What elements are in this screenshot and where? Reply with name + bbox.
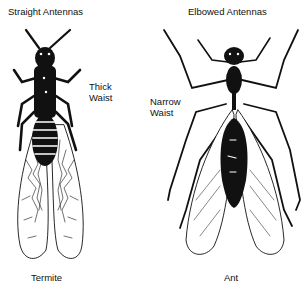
ant-waist-label-line2: Waist bbox=[150, 107, 173, 118]
termite-illustration bbox=[14, 30, 83, 258]
termite-ant-diagram: Straight Antennas Thick Waist Termite El… bbox=[0, 0, 308, 286]
termite-waist-label-line2: Waist bbox=[89, 92, 112, 103]
termite-body bbox=[32, 47, 58, 166]
termite-name-label: Termite bbox=[31, 272, 62, 283]
termite-antennas bbox=[26, 30, 70, 48]
insect-illustrations bbox=[0, 0, 308, 286]
ant-antenna-label: Elbowed Antennas bbox=[188, 6, 267, 17]
ant-illustration bbox=[164, 30, 300, 254]
termite-waist-label-line1: Thick bbox=[89, 81, 112, 92]
ant-waist-label-line1: Narrow bbox=[150, 96, 181, 107]
termite-antenna-label: Straight Antennas bbox=[8, 6, 83, 17]
ant-name-label: Ant bbox=[224, 272, 238, 283]
